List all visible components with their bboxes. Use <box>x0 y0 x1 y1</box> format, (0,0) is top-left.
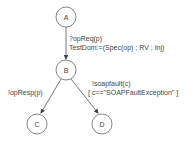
node-b-label: B <box>64 67 69 74</box>
node-d: D <box>92 114 112 134</box>
node-d-label: D <box>99 121 104 128</box>
edge-b-c-label: !opResp(p) <box>8 89 43 97</box>
edge-a-b-label-2: TestDom:=(Spec(op) ; RV ; Inj) <box>69 44 164 52</box>
node-c-label: C <box>34 121 39 128</box>
node-b: B <box>56 60 76 80</box>
edge-b-d-label-2: [ c=="SOAPFaultException" ] <box>88 89 178 97</box>
node-a-label: A <box>64 14 69 21</box>
node-a: A <box>56 7 76 27</box>
state-diagram: A B C D <box>0 0 191 143</box>
edge-b-d-label-1: !soapfault(c) <box>92 80 131 88</box>
edge-a-b-label-1: ?opReq(p) <box>69 35 102 43</box>
edge-b-c <box>41 79 61 113</box>
node-c: C <box>27 114 47 134</box>
